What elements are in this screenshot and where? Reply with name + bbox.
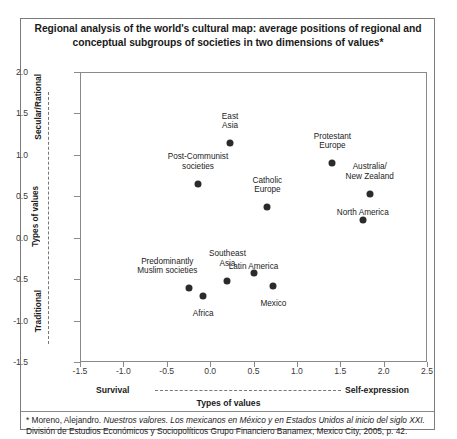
scatter-point-label: East Asia (222, 112, 238, 131)
scatter-point[interactable] (270, 282, 277, 289)
x-tick-label: 2.5 (421, 366, 433, 376)
y-tick-label: 0.0 (0, 233, 28, 243)
y-tick-label: -1.5 (0, 357, 28, 367)
x-tick-label: -1.5 (73, 366, 88, 376)
footnote-part-2: División de Estudios Económicos y Sociop… (26, 426, 407, 436)
scatter-point-label: Predominantly Muslim societies (137, 257, 197, 276)
x-tick-label: -1.0 (116, 366, 131, 376)
x-axis-right-label: Self-expression (345, 385, 409, 395)
x-axis-title: Types of values (0, 398, 457, 408)
scatter-point-label: Latin America (229, 262, 279, 271)
footnote-part-1: * Moreno, Alejandro. (26, 415, 103, 425)
x-tick-label: 2.0 (378, 366, 390, 376)
x-tick-label: 0.0 (204, 366, 216, 376)
x-tick-mark (80, 362, 81, 367)
x-tick-label: 0.5 (248, 366, 260, 376)
x-axis-dashed-line (155, 390, 341, 391)
y-tick-label: -0.5 (0, 274, 28, 284)
x-tick-mark (167, 362, 168, 367)
y-tick-label: 1.0 (0, 150, 28, 160)
figure-page: Regional analysis of the world's cultura… (0, 0, 457, 439)
scatter-point[interactable] (264, 204, 271, 211)
x-tick-label: 1.0 (291, 366, 303, 376)
scatter-point-label: Post-Communist societies (168, 152, 229, 171)
footnote-divider (21, 411, 434, 412)
x-tick-mark (427, 362, 428, 367)
scatter-point[interactable] (329, 160, 336, 167)
y-tick-label: 2.0 (0, 67, 28, 77)
scatter-point[interactable] (186, 285, 193, 292)
y-axis-top-label: Secular/Rational (33, 74, 43, 140)
scatter-point[interactable] (359, 217, 366, 224)
scatter-point[interactable] (227, 140, 234, 147)
figure-footnote: * Moreno, Alejandro. Nuestros valores. L… (26, 415, 430, 437)
scatter-point-label: Africa (193, 309, 214, 318)
x-tick-mark (254, 362, 255, 367)
x-tick-mark (384, 362, 385, 367)
scatter-point[interactable] (194, 180, 201, 187)
y-axis-dashed-line (48, 92, 49, 344)
scatter-point-label: Mexico (260, 299, 286, 308)
x-axis-left-label: Survival (96, 385, 129, 395)
scatter-point[interactable] (200, 292, 207, 299)
scatter-point-label: Australia/ New Zealand (346, 162, 394, 181)
y-axis-title: Types of values (31, 186, 40, 247)
y-axis-bottom-label: Traditional (33, 290, 43, 332)
x-tick-mark (210, 362, 211, 367)
scatter-point-label: Catholic Europe (253, 176, 283, 195)
figure-title: Regional analysis of the world's cultura… (26, 22, 430, 50)
x-tick-mark (123, 362, 124, 367)
x-tick-mark (297, 362, 298, 367)
scatter-point[interactable] (366, 190, 373, 197)
x-tick-label: 1.5 (334, 366, 346, 376)
y-tick-label: 0.5 (0, 191, 28, 201)
x-tick-label: -0.5 (159, 366, 174, 376)
x-tick-mark (340, 362, 341, 367)
y-tick-label: 1.5 (0, 108, 28, 118)
scatter-point[interactable] (224, 277, 231, 284)
scatter-point-label: Protestant Europe (314, 132, 351, 151)
y-tick-label: -1.0 (0, 316, 28, 326)
footnote-italic-citation: Nuestros valores. Los mexicanos en Méxic… (103, 415, 424, 425)
scatter-point-label: North America (337, 208, 389, 217)
